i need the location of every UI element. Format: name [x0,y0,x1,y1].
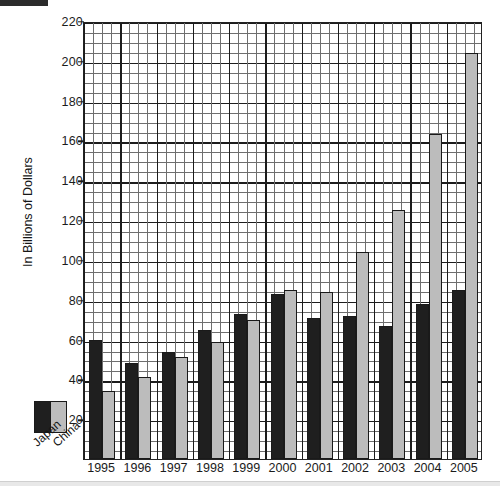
bars-layer [84,23,481,459]
bar-china-2002 [356,252,369,459]
bar-japan-1998 [198,330,211,459]
bar-japan-2000 [271,294,284,459]
bar-japan-2004 [416,304,429,459]
legend: Japan China [28,401,84,473]
x-axis-labels: 1995199619971998199920002001200220032004… [83,461,482,481]
bar-china-2003 [392,210,405,459]
bar-japan-2005 [452,290,465,459]
bar-china-1997 [175,357,188,459]
bar-japan-1999 [234,314,247,459]
bar-japan-2002 [343,316,356,459]
bar-japan-1997 [162,352,175,460]
bar-china-1999 [247,320,260,459]
x-tick-label-2005: 2005 [441,461,487,475]
bar-japan-1995 [89,340,102,459]
bar-japan-2001 [307,318,320,459]
bar-china-2000 [284,290,297,459]
bar-china-1996 [138,377,151,459]
bar-china-2005 [465,53,478,459]
bar-china-1995 [102,391,115,459]
y-axis-title: In Billions of Dollars [21,122,35,302]
bar-china-2004 [429,134,442,459]
bar-japan-1996 [125,363,138,459]
bar-china-1998 [211,342,224,459]
bar-china-2001 [320,292,333,459]
bar-japan-2003 [379,326,392,459]
plot-area [83,22,482,460]
chart-page: 20406080100120140160180200220 In Billion… [0,0,500,486]
